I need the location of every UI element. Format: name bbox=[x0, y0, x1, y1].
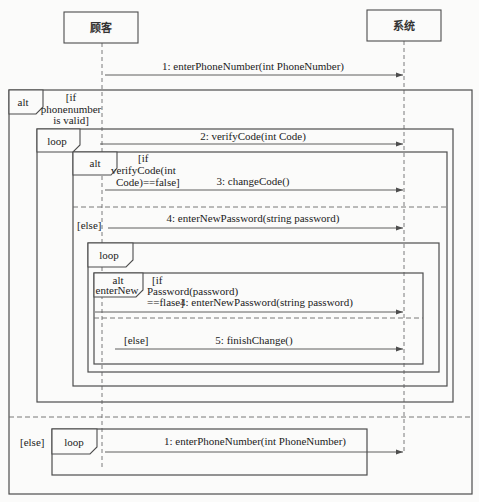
else-loop-operator: loop bbox=[64, 436, 84, 448]
message-label: 1: enterPhoneNumber(int PhoneNumber) bbox=[164, 435, 346, 448]
message-label: 4: enterNewPassword(string password) bbox=[180, 296, 353, 309]
customer-label: 顾客 bbox=[90, 21, 113, 35]
message-1-repeat: 1: enterPhoneNumber(int PhoneNumber) bbox=[105, 435, 403, 455]
message-1: 1: enterPhoneNumber(int PhoneNumber) bbox=[105, 60, 403, 78]
message-2: 2: verifyCode(int Code) bbox=[100, 130, 403, 147]
system-lifeline-head: 系统 bbox=[367, 10, 441, 41]
system-label: 系统 bbox=[393, 19, 415, 33]
message-label: 5: finishChange() bbox=[215, 334, 293, 347]
password-loop-operator: loop bbox=[99, 249, 119, 261]
guard-line: [if bbox=[66, 91, 77, 103]
arrowhead-icon bbox=[396, 188, 403, 193]
message-label: 1: enterPhoneNumber(int PhoneNumber) bbox=[162, 60, 344, 73]
outer-alt-operator: alt bbox=[18, 96, 29, 108]
guard-line: is valid] bbox=[53, 114, 89, 126]
message-5: 5: finishChange() bbox=[115, 334, 403, 352]
arrowhead-icon bbox=[396, 347, 403, 352]
verify-alt-guard: [if verifyCode(int Code)==false] bbox=[111, 152, 180, 189]
guard-line: [if bbox=[138, 152, 149, 164]
message-4b: 4: enterNewPassword(string password) bbox=[95, 296, 403, 315]
message-4: 4: enterNewPassword(string password) bbox=[108, 212, 403, 231]
arrowhead-icon bbox=[396, 226, 403, 231]
message-label: 3: changeCode() bbox=[217, 175, 290, 188]
customer-lifeline-head: 顾客 bbox=[64, 12, 138, 43]
sequence-diagram: 顾客 系统 alt loop alt loop alt enterNew loo… bbox=[0, 0, 479, 502]
arrowhead-icon bbox=[396, 73, 403, 78]
verify-alt-operator: alt bbox=[90, 157, 101, 169]
arrowhead-icon bbox=[396, 142, 403, 147]
outer-alt-guard: [if phonenumber is valid] bbox=[41, 91, 102, 126]
verify-alt-else-guard: [else] bbox=[77, 219, 101, 231]
guard-line: Code)==false] bbox=[116, 176, 180, 189]
arrowhead-icon bbox=[396, 450, 403, 455]
verify-loop-operator: loop bbox=[47, 135, 67, 147]
outer-alt-else-guard: [else] bbox=[20, 436, 44, 448]
password-alt-else-guard: [else] bbox=[124, 334, 148, 346]
arrowhead-icon bbox=[396, 310, 403, 315]
password-alt-operator-line2: enterNew bbox=[96, 284, 139, 296]
guard-line: ==flase] bbox=[147, 296, 184, 308]
message-label: 2: verifyCode(int Code) bbox=[200, 130, 306, 143]
message-label: 4: enterNewPassword(string password) bbox=[167, 212, 340, 225]
